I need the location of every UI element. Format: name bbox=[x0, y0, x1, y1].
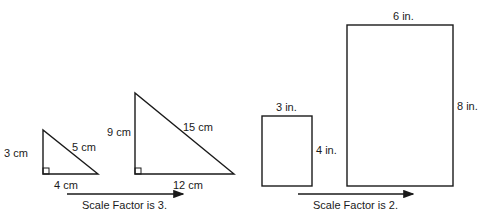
large-triangle-hypotenuse-label: 15 cm bbox=[183, 121, 213, 133]
large-rectangle-height-label: 8 in. bbox=[457, 100, 478, 112]
small-triangle-vertical-label: 3 cm bbox=[4, 147, 28, 159]
right-angle-marker bbox=[43, 168, 49, 174]
large-rectangle bbox=[347, 25, 453, 186]
large-triangle-horizontal-label: 12 cm bbox=[173, 179, 203, 191]
small-triangle-hypotenuse-label: 5 cm bbox=[72, 141, 96, 153]
right-angle-marker bbox=[135, 168, 141, 174]
large-triangle bbox=[135, 93, 234, 174]
triangles-scale-caption: Scale Factor is 3. bbox=[82, 199, 167, 211]
small-triangle-horizontal-label: 4 cm bbox=[54, 179, 78, 191]
large-triangle-vertical-label: 9 cm bbox=[107, 126, 131, 138]
large-rectangle-width-label: 6 in. bbox=[393, 10, 414, 22]
small-rectangle bbox=[262, 116, 312, 186]
rectangles-scale-caption: Scale Factor is 2. bbox=[313, 199, 398, 211]
small-rectangle-height-label: 4 in. bbox=[316, 144, 337, 156]
small-rectangle-width-label: 3 in. bbox=[276, 101, 297, 113]
